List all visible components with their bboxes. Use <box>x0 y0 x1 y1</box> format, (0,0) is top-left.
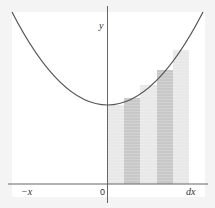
y-axis-label: y <box>99 20 103 31</box>
riemann-diagram <box>0 0 215 208</box>
riemann-bars <box>108 50 189 184</box>
dx-label: dx <box>186 186 195 197</box>
neg-x-label: −x <box>21 186 32 197</box>
origin-label: 0 <box>100 187 105 197</box>
